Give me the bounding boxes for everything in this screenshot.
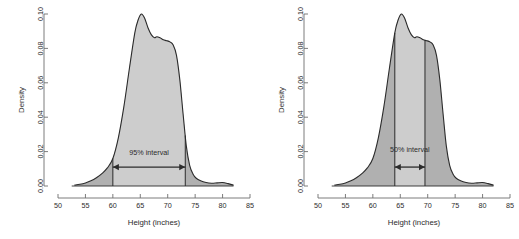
y-tick-label: 0.00 <box>36 179 45 193</box>
y-axis-title: Density <box>17 87 26 113</box>
density-plot-95-svg: 95% interval5055606570758085Height (inch… <box>0 0 259 239</box>
y-tick-label: 0.06 <box>296 76 305 90</box>
x-tick-label: 75 <box>451 201 459 210</box>
x-tick-label: 85 <box>506 201 514 210</box>
density-plot-95-panel: 95% interval5055606570758085Height (inch… <box>0 0 259 239</box>
y-tick-label: 0.10 <box>36 7 45 21</box>
density-plot-50-panel: 50% interval5055606570758085Height (inch… <box>260 0 519 239</box>
x-tick-label: 85 <box>246 201 254 210</box>
x-tick-label: 50 <box>54 201 62 210</box>
y-tick-label: 0.02 <box>296 145 305 159</box>
density-fill-inner <box>113 14 185 186</box>
x-tick-label: 80 <box>479 201 487 210</box>
density-fill-inner <box>395 14 425 186</box>
x-tick-label: 55 <box>341 201 349 210</box>
x-tick-label: 50 <box>314 201 322 210</box>
figure-canvas: 95% interval5055606570758085Height (inch… <box>0 0 519 239</box>
y-tick-label: 0.08 <box>36 41 45 55</box>
y-tick-label: 0.00 <box>296 179 305 193</box>
x-axis-title: Height (inches) <box>128 218 181 227</box>
y-tick-label: 0.10 <box>296 7 305 21</box>
x-tick-label: 70 <box>424 201 432 210</box>
interval-label: 50% interval <box>390 145 430 154</box>
density-plot-50-svg: 50% interval5055606570758085Height (inch… <box>260 0 519 239</box>
x-tick-label: 65 <box>136 201 144 210</box>
x-tick-label: 60 <box>369 201 377 210</box>
y-tick-label: 0.02 <box>36 145 45 159</box>
x-tick-label: 80 <box>219 201 227 210</box>
x-tick-label: 65 <box>396 201 404 210</box>
x-tick-label: 60 <box>109 201 117 210</box>
x-tick-label: 75 <box>191 201 199 210</box>
y-tick-label: 0.04 <box>296 110 305 124</box>
x-tick-label: 70 <box>164 201 172 210</box>
x-tick-label: 55 <box>81 201 89 210</box>
interval-label: 95% interval <box>129 148 169 157</box>
y-tick-label: 0.06 <box>36 76 45 90</box>
y-tick-label: 0.08 <box>296 41 305 55</box>
y-tick-label: 0.04 <box>36 110 45 124</box>
y-axis-title: Density <box>277 87 286 113</box>
x-axis-title: Height (inches) <box>388 218 441 227</box>
